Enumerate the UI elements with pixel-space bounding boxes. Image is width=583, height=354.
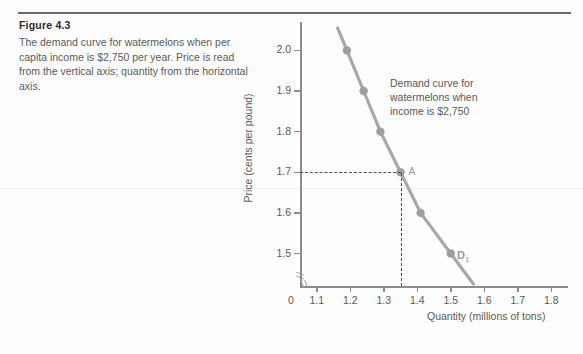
demand-curve-line <box>338 28 474 284</box>
data-point <box>343 46 351 54</box>
demand-curve-chart: Price (cents per pound) Quantity (millio… <box>252 14 572 344</box>
figure-number: Figure 4.3 <box>19 19 249 31</box>
quantity-guide-dashed-line <box>401 173 402 286</box>
price-guide-dashed-line <box>300 172 401 173</box>
demand-curve-annotation: Demand curve for watermelons when income… <box>390 76 478 118</box>
data-point <box>359 87 367 95</box>
data-point <box>447 249 455 257</box>
demand-curve-series-label: D1 <box>457 249 469 264</box>
series-label-subscript: 1 <box>465 255 469 264</box>
point-a-label: A <box>409 165 416 177</box>
demand-curve-svg <box>252 14 572 344</box>
figure-caption: Figure 4.3 The demand curve for watermel… <box>19 19 249 93</box>
figure-page: Figure 4.3 The demand curve for watermel… <box>0 0 583 354</box>
figure-description: The demand curve for watermelons when pe… <box>19 35 249 93</box>
data-point <box>376 127 384 135</box>
series-label-text: D <box>457 249 465 261</box>
data-point <box>416 209 424 217</box>
